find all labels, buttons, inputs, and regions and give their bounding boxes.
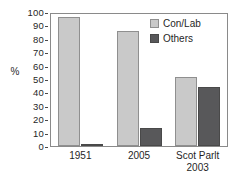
y-axis-tick-label: 30 (33, 102, 44, 111)
y-axis-tick-mark (45, 120, 48, 121)
y-axis-tick-label: 80 (33, 35, 44, 44)
y-axis-tick-mark (45, 93, 48, 94)
y-axis-tick-mark (45, 13, 48, 14)
chart-legend: Con/Lab Others (150, 17, 224, 47)
y-axis-tick-mark (45, 53, 48, 54)
y-axis-tick-mark (45, 134, 48, 135)
legend-item-others: Others (150, 32, 224, 45)
y-axis-tick-mark (45, 26, 48, 27)
legend-label-con-lab: Con/Lab (163, 18, 201, 29)
x-axis-label-line1: 1951 (69, 150, 91, 161)
y-axis-tick-label: 70 (33, 48, 44, 57)
bar-con-lab (117, 31, 139, 146)
legend-swatch-icon-con-lab (150, 19, 159, 28)
x-axis-label-line1: Scot Parlt (176, 150, 219, 161)
x-axis-labels: 19512005Scot Parlt2003 (50, 150, 228, 182)
y-axis-tick-label: 10 (33, 129, 44, 138)
y-axis-tick-label: 40 (33, 88, 44, 97)
y-axis-tick-mark (45, 107, 48, 108)
y-axis-tick-mark (45, 80, 48, 81)
y-axis-tick-label: 60 (33, 62, 44, 71)
y-axis-tick-label: 20 (33, 115, 44, 124)
y-axis-tick-mark (45, 147, 48, 148)
y-axis-tick-label: 100 (28, 8, 44, 17)
x-axis-label-line2: 2003 (158, 162, 235, 174)
y-axis-tick-label: 50 (33, 75, 44, 84)
x-axis-label: Scot Parlt2003 (158, 150, 235, 174)
legend-swatch-icon-others (150, 34, 159, 43)
bar-others (140, 128, 162, 146)
bar-chart: % 1009080706050403020100 19512005Scot Pa… (0, 0, 235, 182)
x-axis-label-line1: 2005 (128, 150, 150, 161)
bar-con-lab (175, 77, 197, 146)
y-axis-tick-mark (45, 40, 48, 41)
y-axis-title: % (8, 66, 22, 78)
bar-others (198, 87, 220, 146)
y-axis-ticks: 1009080706050403020100 (22, 8, 48, 153)
legend-label-others: Others (163, 33, 193, 44)
y-axis-tick-label: 90 (33, 21, 44, 30)
y-axis-tick-mark (45, 67, 48, 68)
bar-others (81, 144, 103, 146)
bar-con-lab (58, 17, 80, 146)
legend-item-con-lab: Con/Lab (150, 17, 224, 30)
